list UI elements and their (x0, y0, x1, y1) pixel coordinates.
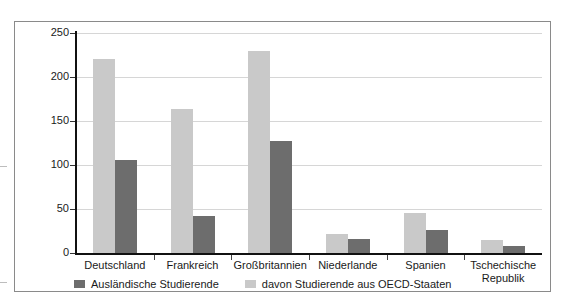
x-axis-group-divider (387, 255, 388, 260)
legend-swatch-icon (74, 280, 85, 288)
x-axis-label-niederlande: Niederlande (309, 259, 387, 272)
bar-light-gro-britannien (248, 51, 270, 253)
bar-light-deutschland (93, 59, 115, 253)
x-axis-label-tschechische-republik: Tschechische Republik (464, 259, 542, 284)
y-axis-tick-label: 150 (7, 115, 69, 126)
gridline (76, 165, 542, 166)
bar-dark-deutschland (115, 160, 137, 253)
y-axis-tick-label: 200 (7, 71, 69, 82)
bar-dark-niederlande (348, 239, 370, 253)
bar-dark-tschechische-republik (503, 246, 525, 253)
bar-light-spanien (404, 213, 426, 253)
y-axis-tick-label: 100 (7, 159, 69, 170)
bar-dark-spanien (426, 230, 448, 253)
x-axis-group-divider (154, 255, 155, 260)
legend-entry-2: davon Studierende aus OECD-Staaten (245, 278, 452, 290)
x-axis-label-gro-britannien: Großbritannien (231, 259, 309, 272)
x-axis-group-divider (231, 255, 232, 260)
x-axis-group-divider (464, 255, 465, 260)
bar-light-niederlande (326, 234, 348, 253)
bar-dark-frankreich (193, 216, 215, 253)
gridline (76, 209, 542, 210)
bar-light-tschechische-republik (481, 240, 503, 253)
bar-dark-gro-britannien (270, 141, 292, 253)
legend-entry-1: Ausländische Studierende (74, 278, 219, 290)
y-axis-tick-label: 50 (7, 203, 69, 214)
legend-label: Ausländische Studierende (91, 278, 219, 290)
gridline (76, 33, 542, 34)
y-axis-line (75, 31, 77, 255)
legend-swatch-icon (245, 280, 256, 288)
y-axis: 250200150100500 (0, 0, 69, 306)
x-axis-label-spanien: Spanien (387, 259, 465, 272)
gridline (76, 121, 542, 122)
x-axis-label-frankreich: Frankreich (154, 259, 232, 272)
gridline (76, 77, 542, 78)
y-axis-tick-label: 250 (7, 27, 69, 38)
legend-label: davon Studierende aus OECD-Staaten (262, 278, 452, 290)
bar-light-frankreich (171, 109, 193, 253)
y-axis-tick-label: 0 (7, 247, 69, 258)
x-axis-label-deutschland: Deutschland (76, 259, 154, 272)
chart-legend: Ausländische Studierendedavon Studierend… (74, 278, 451, 290)
x-axis-group-divider (309, 255, 310, 260)
